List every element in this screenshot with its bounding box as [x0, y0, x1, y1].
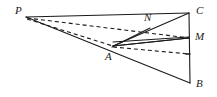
segment-C-B [189, 13, 190, 83]
segment-P-C [26, 13, 189, 17]
segment-P-M-dashed [27, 18, 189, 38]
point-label-M: M [195, 31, 204, 42]
point-label-C: C [196, 5, 203, 16]
figure-canvas [0, 0, 217, 97]
geometry-figure: P C M B A N [0, 0, 217, 97]
point-label-N: N [144, 12, 151, 23]
point-label-P: P [15, 5, 22, 16]
point-label-A: A [105, 51, 112, 62]
point-label-B: B [196, 78, 203, 89]
segment-A-D-dashed [113, 47, 189, 54]
